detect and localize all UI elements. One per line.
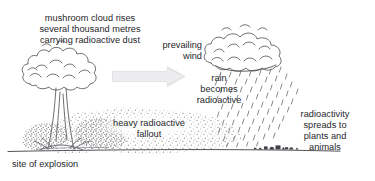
label-heavy-radioactive-fallout: heavy radioactive fallout	[101, 118, 197, 140]
fallout-diagram: mushroom cloud rises several thousand me…	[0, 0, 375, 181]
label-radioactivity-spreads: radioactivity spreads to plants and anim…	[282, 109, 368, 153]
label-prevailing-wind: prevailing wind	[132, 40, 202, 62]
label-rain-becomes-radioactive: rain becomes radioactive	[186, 73, 252, 106]
label-site-of-explosion: site of explosion	[12, 159, 132, 170]
